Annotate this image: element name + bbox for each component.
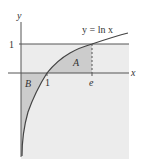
x-tick-e-label: e xyxy=(89,77,94,88)
y-axis-label: y xyxy=(16,10,22,21)
x-axis-label: x xyxy=(130,67,136,78)
region-b-label: B xyxy=(25,78,31,89)
y-tick-one-label: 1 xyxy=(9,39,14,50)
curve-label: y = ln x xyxy=(82,24,113,35)
ln-x-diagram: y x 1 1 e A B y = ln x xyxy=(0,0,142,161)
region-a-label: A xyxy=(72,57,80,68)
x-tick-one-label: 1 xyxy=(45,77,50,88)
